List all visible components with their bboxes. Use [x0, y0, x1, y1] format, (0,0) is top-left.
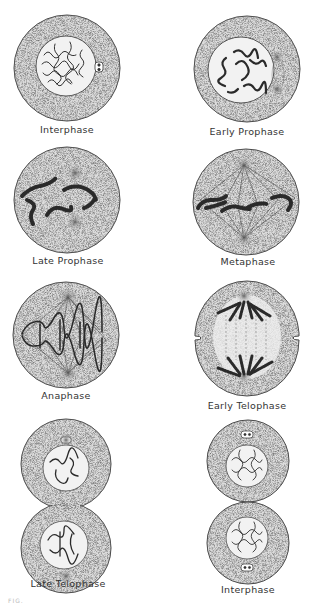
cell-anaphase: [13, 282, 119, 388]
label-early-prophase: Early Prophase: [210, 126, 285, 137]
cell-interphase-1: [14, 15, 120, 121]
cell-interphase-2: [207, 420, 289, 584]
label-metaphase: Metaphase: [221, 256, 276, 267]
aster-upper: [235, 156, 253, 174]
label-early-telophase: Early Telophase: [208, 400, 287, 411]
aster-upper: [66, 164, 84, 182]
aster-upper: [58, 287, 78, 307]
cell-late-telophase: [21, 419, 111, 593]
cell-early-telophase: [195, 281, 299, 396]
mitosis-diagram: [0, 0, 309, 606]
label-interphase-2: Interphase: [221, 584, 275, 595]
centrioles: [95, 62, 103, 72]
aster-lower: [270, 82, 284, 96]
aster-lower: [58, 363, 78, 383]
cell-metaphase: [193, 149, 299, 255]
label-late-prophase: Late Prophase: [32, 255, 103, 266]
aster-lower: [235, 229, 253, 247]
label-anaphase: Anaphase: [41, 390, 90, 401]
figure-caption: FIG.: [8, 597, 24, 604]
label-interphase-1: Interphase: [40, 124, 94, 135]
nucleus-lower: [226, 517, 268, 559]
aster-upper: [59, 433, 73, 447]
cell-late-prophase: [14, 147, 120, 253]
label-late-telophase: Late Telophase: [30, 578, 105, 589]
nucleus: [36, 36, 96, 96]
nucleus-upper: [43, 445, 89, 491]
aster-upper: [270, 50, 284, 64]
aster-lower: [66, 213, 84, 231]
nucleus: [208, 37, 274, 103]
cell-early-prophase: [194, 16, 300, 122]
nucleus-upper: [226, 445, 268, 487]
